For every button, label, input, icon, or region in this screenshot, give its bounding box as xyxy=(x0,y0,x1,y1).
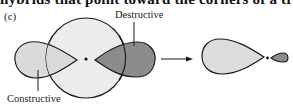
constructive-label: Constructive xyxy=(7,93,61,104)
hybrid-large-lobe xyxy=(202,39,264,74)
destructive-label: Destructive xyxy=(115,9,163,20)
hybrid-small-lobe xyxy=(271,53,288,62)
nucleus-dot xyxy=(84,57,87,60)
hybrid-nucleus-dot xyxy=(266,57,269,60)
panel-label: (c) xyxy=(4,10,16,22)
arrow-icon xyxy=(161,57,193,62)
